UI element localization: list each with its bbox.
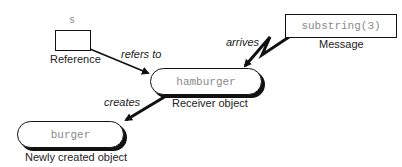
arrives-label: arrives bbox=[226, 36, 259, 48]
reference-caption: Reference bbox=[50, 53, 101, 65]
new-object-caption: Newly created object bbox=[25, 151, 127, 163]
receiver-caption: Receiver object bbox=[172, 97, 248, 109]
receiver-text: hamburger bbox=[176, 76, 235, 88]
reference-box bbox=[55, 30, 91, 51]
new-object: burger bbox=[17, 121, 124, 148]
message-box: substring(3) bbox=[285, 14, 397, 38]
receiver-object: hamburger bbox=[150, 68, 262, 95]
refers-to-label: refers to bbox=[121, 48, 161, 60]
new-object-text: burger bbox=[51, 129, 91, 141]
message-caption: Message bbox=[319, 38, 364, 50]
message-text: substring(3) bbox=[301, 20, 380, 32]
reference-variable-name: s bbox=[69, 15, 75, 26]
creates-label: creates bbox=[104, 96, 140, 108]
